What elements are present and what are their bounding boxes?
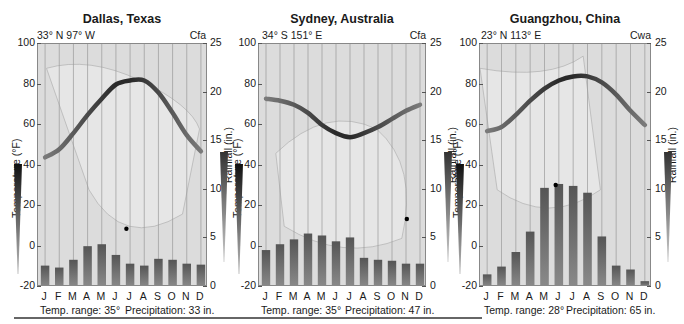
y-tick-left: 100 [451, 36, 477, 48]
divider-rule [14, 317, 482, 319]
y-tick-left: 0 [451, 239, 477, 251]
tick-mark [647, 189, 651, 190]
chart-panel-guangzhou: Guangzhou, China 23° N 113° E Cwa Temper… [0, 0, 684, 324]
y-tick-right: 15 [655, 133, 681, 145]
station-coordinates: 23° N 113° E [481, 29, 541, 41]
y-tick-right: 25 [655, 36, 681, 48]
rainfall-bar-m-2 [512, 252, 521, 286]
y-tick-left: -20 [451, 279, 477, 291]
month-label: S [594, 290, 608, 302]
month-label: F [494, 290, 508, 302]
tick-mark [479, 124, 483, 125]
tick-mark [479, 205, 483, 206]
rainfall-wedge-icon [664, 152, 672, 262]
rainfall-bar-a-3 [526, 232, 535, 286]
tick-mark [479, 84, 483, 85]
y-tick-left: 80 [451, 77, 477, 89]
y-tick-left: 20 [451, 198, 477, 210]
tick-mark [647, 286, 651, 287]
tick-mark [479, 246, 483, 247]
chart-svg [480, 44, 651, 286]
month-label: O [608, 290, 622, 302]
precipitation-label: Precipitation: 65 in. [566, 304, 655, 316]
map-background [480, 56, 600, 208]
y-tick-right: 0 [655, 279, 681, 291]
y-tick-right: 20 [655, 85, 681, 97]
month-label: J [565, 290, 579, 302]
temp-range-label: Temp. range: 28° [484, 304, 564, 316]
y-tick-left: 60 [451, 117, 477, 129]
month-label: N [623, 290, 637, 302]
month-label: J [551, 290, 565, 302]
month-label: M [508, 290, 522, 302]
month-label: A [522, 290, 536, 302]
rainfall-bar-a-7 [583, 193, 592, 286]
climate-code: Cwa [605, 29, 651, 41]
rainfall-bar-o-9 [612, 266, 621, 286]
rainfall-bar-s-8 [598, 236, 607, 286]
tick-mark [647, 92, 651, 93]
station-location-dot [553, 183, 557, 187]
month-label: A [580, 290, 594, 302]
month-label: J [479, 290, 493, 302]
plot-area [479, 43, 651, 286]
rainfall-bar-m-4 [540, 188, 549, 286]
chart-title: Guangzhou, China [479, 12, 651, 26]
month-label: M [537, 290, 551, 302]
y-tick-left: 40 [451, 158, 477, 170]
month-label: D [637, 290, 651, 302]
rainfall-bar-j-6 [569, 186, 578, 286]
rainfall-bar-j-5 [555, 184, 564, 286]
tick-mark [647, 140, 651, 141]
tick-mark [647, 43, 651, 44]
tick-mark [647, 237, 651, 238]
temperature-wedge-icon [456, 164, 464, 274]
tick-mark [479, 286, 483, 287]
rainfall-bar-f-1 [497, 267, 506, 286]
tick-mark [479, 43, 483, 44]
tick-mark [479, 165, 483, 166]
rainfall-bar-n-10 [626, 270, 635, 286]
rainfall-bar-j-0 [483, 274, 492, 286]
